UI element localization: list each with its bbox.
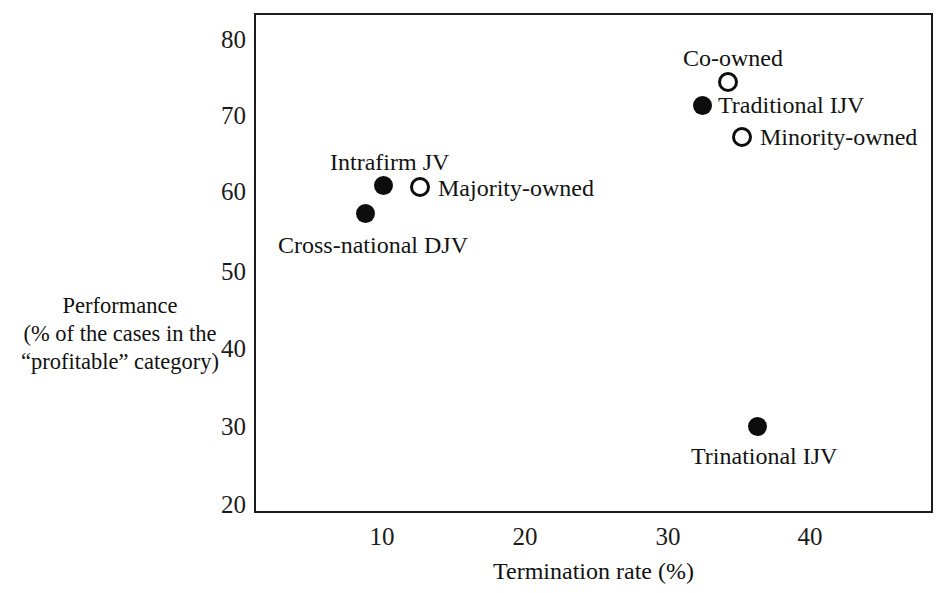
data-point-label: Majority-owned	[438, 175, 594, 201]
data-point-marker	[356, 204, 375, 223]
data-point-marker	[748, 417, 767, 436]
data-point-marker	[693, 96, 712, 115]
data-point-label: Traditional IJV	[718, 92, 864, 118]
data-point-label: Minority-owned	[760, 124, 917, 150]
data-point-label: Trinational IJV	[691, 443, 837, 469]
data-point-marker	[732, 127, 752, 147]
x-tick-label: 20	[495, 524, 555, 549]
scatter-plot-figure: 80706050403020 Cross-national DJVIntrafi…	[0, 0, 949, 593]
x-axis-title: Termination rate (%)	[254, 558, 933, 584]
y-axis-title: Performance (% of the cases in the “prof…	[6, 292, 234, 376]
y-axis-title-line-3: “profitable” category)	[6, 348, 234, 376]
x-tick-label: 40	[780, 524, 840, 549]
data-point-marker	[718, 72, 738, 92]
data-point-label: Co-owned	[683, 45, 783, 71]
data-point-marker	[374, 176, 393, 195]
y-tick-label: 70	[206, 103, 246, 128]
x-axis-tick-labels: 10203040	[0, 524, 949, 556]
y-tick-label: 20	[206, 492, 246, 517]
y-axis-title-line-1: Performance	[6, 292, 234, 320]
plot-area	[254, 13, 933, 513]
x-tick-label: 10	[352, 524, 412, 549]
y-tick-label: 80	[206, 27, 246, 52]
data-point-label: Intrafirm JV	[330, 149, 449, 175]
data-point-label: Cross-national DJV	[278, 232, 468, 258]
y-tick-label: 60	[206, 179, 246, 204]
y-tick-label: 30	[206, 414, 246, 439]
x-tick-label: 30	[638, 524, 698, 549]
y-tick-label: 50	[206, 259, 246, 284]
y-axis-title-line-2: (% of the cases in the	[6, 320, 234, 348]
data-point-marker	[410, 177, 430, 197]
